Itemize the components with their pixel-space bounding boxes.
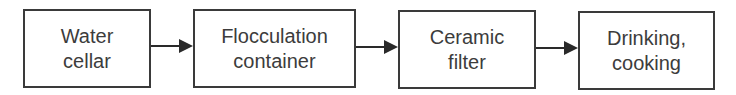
node-label-line: Drinking, [607,26,686,51]
node-label-line: Water [61,24,114,49]
node-label-line: Ceramic [430,25,504,50]
arrow-3 [535,41,578,55]
node-ceramic-filter: Ceramic filter [398,10,536,89]
node-label-line: cooking [612,51,681,76]
node-drinking-cooking: Drinking, cooking [578,11,715,90]
arrow-1 [150,39,193,53]
arrow-2 [355,40,398,54]
node-water-cellar: Water cellar [23,9,151,88]
node-label-line: container [233,49,315,74]
node-flocculation-container: Flocculation container [193,9,356,88]
node-label-line: Flocculation [221,24,328,49]
node-label-line: filter [448,50,486,75]
node-label-line: cellar [63,49,111,74]
